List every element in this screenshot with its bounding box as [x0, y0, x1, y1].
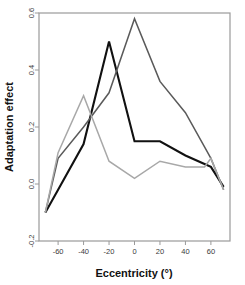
x-tick-label: -40	[78, 247, 89, 256]
y-tick-label: 0.6	[27, 8, 36, 18]
chart-background	[0, 0, 245, 285]
chart-canvas: -0.20.00.20.40.6 -60-40-200204060 Eccent…	[0, 0, 245, 285]
x-tick-label: -60	[53, 247, 64, 256]
y-tick-label: 0.0	[27, 179, 36, 189]
y-tick-label: 0.2	[27, 122, 36, 132]
x-tick-label: 20	[156, 247, 164, 256]
y-axis-title: Adaptation effect	[3, 82, 15, 172]
x-tick-label: -20	[104, 247, 115, 256]
x-tick-label: 0	[132, 247, 136, 256]
y-tick-label: -0.2	[27, 235, 36, 248]
chart-figure: -0.20.00.20.40.6 -60-40-200204060 Eccent…	[0, 0, 245, 285]
x-tick-label: 60	[207, 247, 215, 256]
x-tick-label: 40	[181, 247, 189, 256]
y-tick-label: 0.4	[27, 65, 36, 75]
x-axis-title: Eccentricity (°)	[95, 267, 172, 279]
